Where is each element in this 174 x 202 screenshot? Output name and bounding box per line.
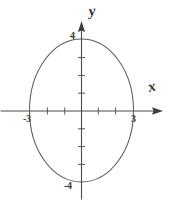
coordinate-plane-svg xyxy=(0,0,174,202)
y-axis-tick-label-pos4: 4 xyxy=(70,31,75,41)
y-axis-tick-label-neg4: -4 xyxy=(64,181,72,191)
y-axis-name-label: y xyxy=(88,3,96,19)
x-axis-tick-label-pos3: 3 xyxy=(131,114,136,124)
x-axis-arrowhead xyxy=(152,107,163,115)
y-axis-arrowhead xyxy=(78,21,85,32)
x-axis-tick-label-neg3: -3 xyxy=(23,114,31,124)
ellipse-graph-figure: -3 3 4 -4 x y xyxy=(0,0,174,202)
